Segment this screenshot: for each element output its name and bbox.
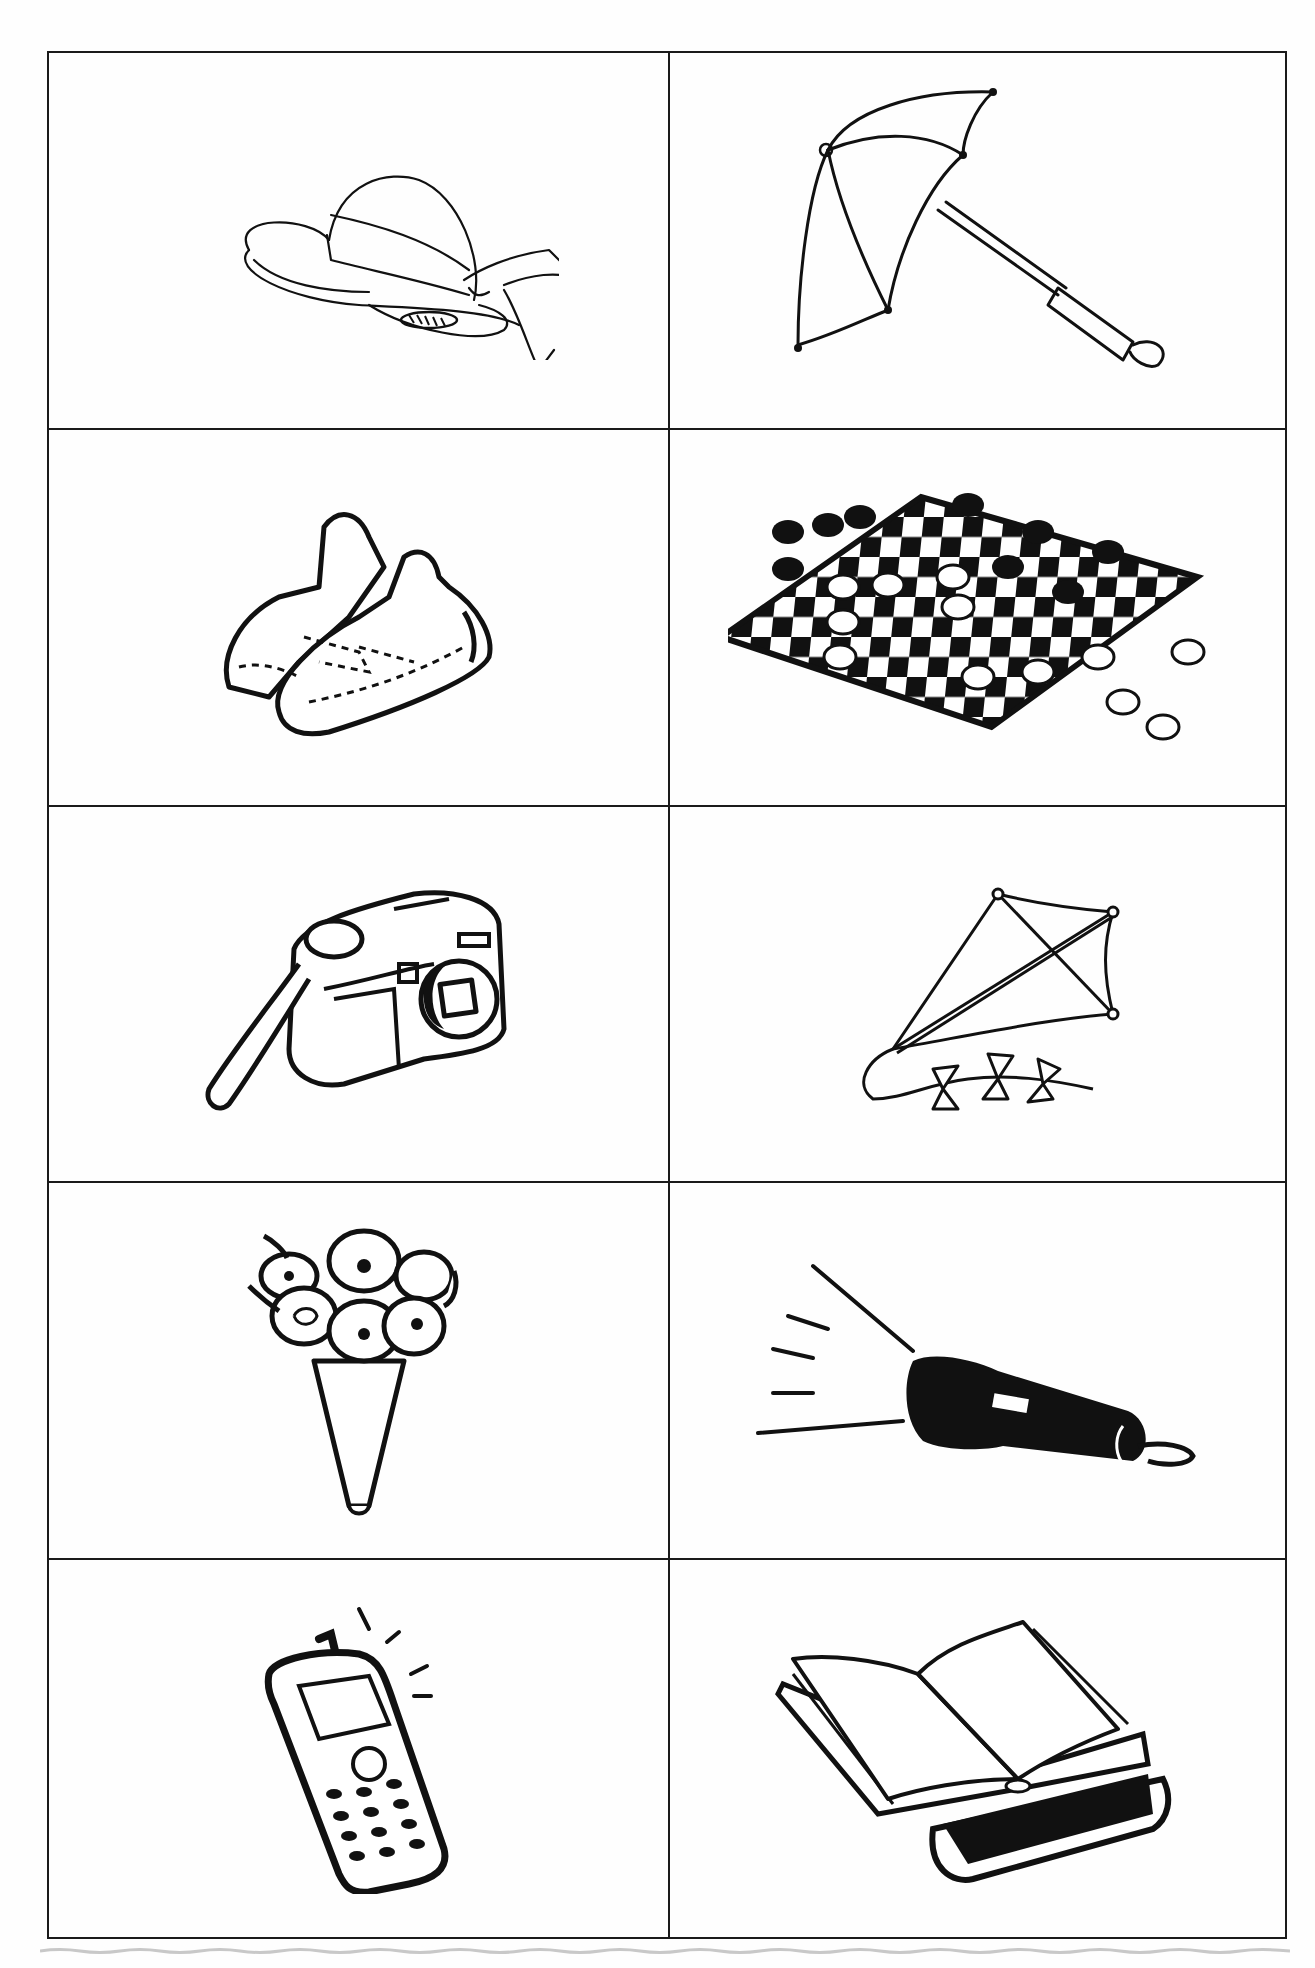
hat-icon <box>159 120 559 360</box>
kite-icon <box>828 874 1128 1114</box>
card-camera[interactable]: camera <box>49 807 670 1184</box>
picture-card-grid: hat <box>47 51 1287 1939</box>
mobile-phone-icon <box>259 1604 459 1894</box>
card-books[interactable]: books <box>670 1560 1285 1937</box>
umbrella-icon <box>768 80 1188 400</box>
card-flashlight[interactable]: flashlight <box>670 1183 1285 1560</box>
card-umbrella[interactable]: umbrella <box>670 53 1285 430</box>
card-bouquet[interactable]: bouquet <box>49 1183 670 1560</box>
worksheet-page: hat <box>0 0 1315 1968</box>
card-sneakers[interactable]: sneakers <box>49 430 670 807</box>
card-kite[interactable]: kite <box>670 807 1285 1184</box>
sneakers-icon <box>209 487 509 747</box>
card-mobile-phone[interactable]: mobile-phone <box>49 1560 670 1937</box>
bouquet-icon <box>239 1216 479 1526</box>
checkerboard-icon <box>728 477 1228 757</box>
card-hat[interactable]: hat <box>49 53 670 430</box>
card-checkers[interactable]: checkers <box>670 430 1285 807</box>
books-icon <box>768 1614 1188 1884</box>
camera-icon <box>194 869 524 1119</box>
flashlight-icon <box>743 1251 1213 1491</box>
torn-paper-edge <box>40 1947 1290 1955</box>
